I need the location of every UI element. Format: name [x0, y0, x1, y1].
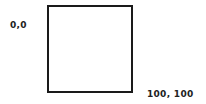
end-corner-label: 100, 100	[147, 89, 194, 99]
origin-label: 0,0	[10, 20, 27, 30]
coordinate-square	[47, 5, 133, 93]
